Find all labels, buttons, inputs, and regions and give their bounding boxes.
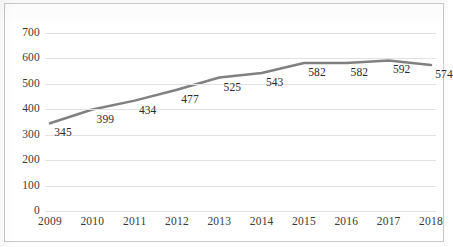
data-label-2011: 434 (139, 105, 157, 117)
data-label-2009: 345 (54, 128, 72, 140)
gridline-y-600 (45, 58, 436, 59)
x-tick-label: 2016 (334, 216, 358, 228)
data-label-2013: 525 (224, 82, 242, 94)
x-tick-label: 2018 (419, 216, 443, 228)
x-tick-label: 2014 (250, 216, 274, 228)
y-tick-label: 700 (22, 27, 40, 39)
data-label-2016: 582 (351, 67, 369, 79)
data-label-2017: 592 (393, 65, 411, 77)
y-tick-label: 600 (22, 52, 40, 64)
x-tick-label: 2012 (165, 216, 189, 228)
y-tick-label: 400 (22, 103, 40, 115)
y-tick-label: 200 (22, 154, 40, 166)
x-tick-label: 2011 (123, 216, 146, 228)
y-tick-label: 100 (22, 180, 40, 192)
x-tick-label: 2013 (207, 216, 231, 228)
gridline-y-200 (45, 160, 436, 161)
gridline-y-100 (45, 186, 436, 187)
x-tick-label: 2009 (38, 216, 62, 228)
data-label-2014: 543 (266, 77, 284, 89)
data-label-2010: 399 (97, 114, 115, 126)
y-tick-label: 500 (22, 78, 40, 90)
plot-area: 345399434477525543582582592574 (45, 33, 436, 211)
gridline-y-700 (45, 33, 436, 34)
data-label-2018: 574 (435, 69, 453, 81)
y-tick-label: 300 (22, 129, 40, 141)
data-label-2015: 582 (308, 67, 326, 79)
x-axis: 2009201020112012201320142015201620172018 (45, 216, 436, 236)
x-tick-label: 2010 (80, 216, 104, 228)
gridline-y-300 (45, 135, 436, 136)
y-axis: 0100200300400500600700 (4, 33, 40, 211)
gridline-y-400 (45, 109, 436, 110)
x-tick-label: 2017 (377, 216, 401, 228)
gridline-y-0 (45, 211, 436, 212)
data-label-2012: 477 (181, 94, 199, 106)
x-tick-label: 2015 (292, 216, 316, 228)
